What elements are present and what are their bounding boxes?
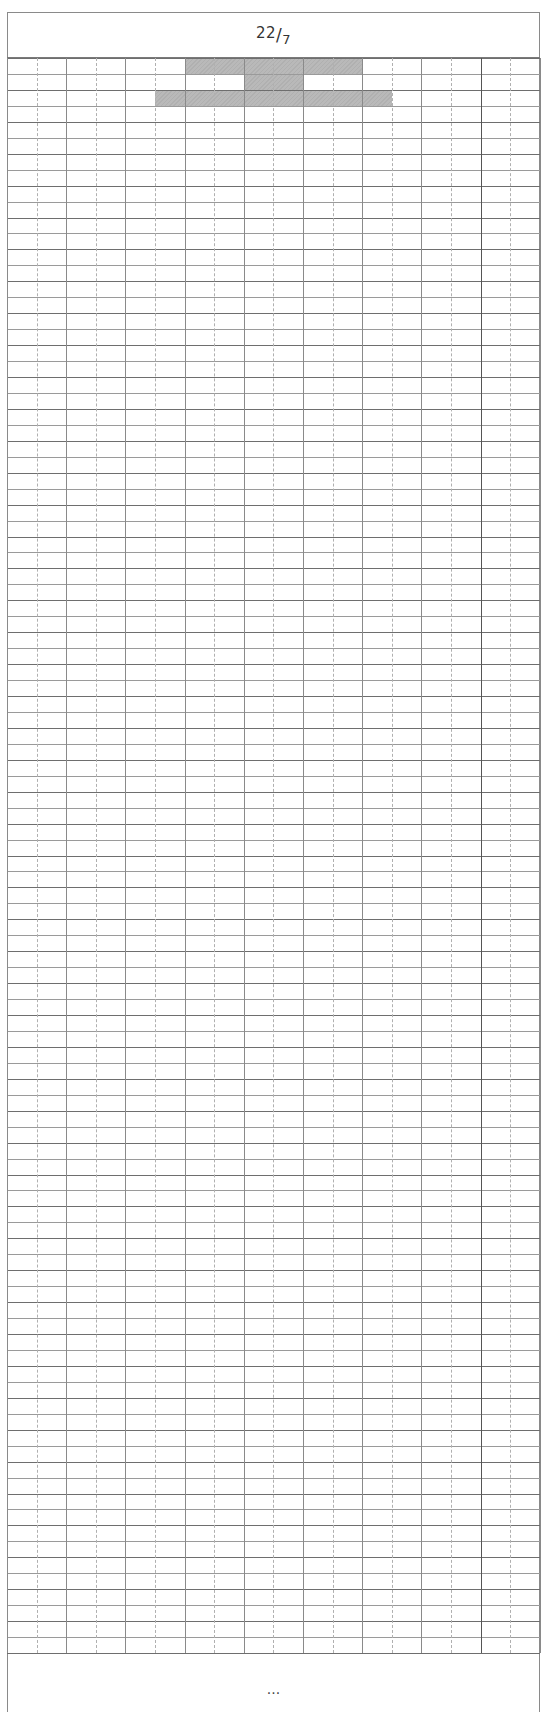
grid-column-line	[7, 58, 8, 1653]
pattern-title: 22/7	[256, 25, 291, 45]
grid-column-line	[362, 58, 363, 1653]
pattern-grid	[7, 58, 540, 1653]
grid-column-line	[451, 58, 452, 1653]
continuation-ellipsis: ...	[7, 1681, 540, 1697]
grid-column-line	[244, 58, 245, 1653]
pattern-header: 22/7	[7, 12, 540, 58]
title-denominator: 7	[282, 32, 291, 47]
grid-row-line	[7, 1653, 540, 1654]
grid-column-line	[125, 58, 126, 1653]
grid-column-line	[185, 58, 186, 1653]
title-numerator: 22	[256, 24, 276, 42]
grid-column-line	[481, 58, 482, 1653]
grid-column-line	[66, 58, 67, 1653]
grid-column-line	[392, 58, 393, 1653]
grid-column-line	[37, 58, 38, 1653]
grid-column-line	[333, 58, 334, 1653]
grid-column-line	[540, 58, 541, 1653]
grid-column-line	[214, 58, 215, 1653]
grid-column-line	[303, 58, 304, 1653]
grid-column-line	[273, 58, 274, 1653]
grid-column-line	[96, 58, 97, 1653]
grid-column-line	[155, 58, 156, 1653]
grid-column-line	[510, 58, 511, 1653]
grid-column-line	[421, 58, 422, 1653]
